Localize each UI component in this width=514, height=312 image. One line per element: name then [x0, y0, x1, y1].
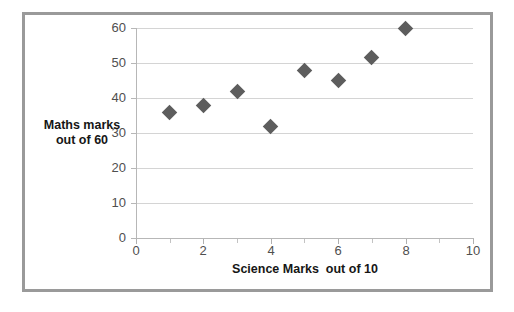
gridline-20 [136, 168, 473, 169]
y-tick-label-20: 20 [100, 161, 126, 174]
x-axis-title: Science Marks out of 10 [136, 262, 474, 276]
gridline-60 [136, 28, 473, 29]
y-axis-title-line1: Maths marks [34, 118, 130, 133]
x-axis-line [136, 238, 474, 239]
scatter-chart: 60 50 40 30 20 10 0 0 2 4 6 8 10 Maths m… [0, 0, 514, 312]
y-tick-label-40: 40 [100, 91, 126, 104]
x-tick-9 [439, 239, 440, 243]
y-axis-title: Maths marks out of 60 [34, 118, 130, 148]
y-axis-title-line2: out of 60 [34, 133, 130, 148]
gridlines-group [136, 28, 473, 238]
x-tick-label-10: 10 [458, 243, 488, 258]
y-tick-label-10: 10 [100, 196, 126, 209]
gridline-10 [136, 203, 473, 204]
x-tick-5 [304, 239, 305, 243]
y-tick-40 [131, 98, 136, 99]
y-tick-label-50: 50 [100, 56, 126, 69]
y-tick-50 [131, 63, 136, 64]
x-tick-3 [237, 239, 238, 243]
x-tick-label-0: 0 [121, 243, 151, 258]
y-axis-line [136, 28, 137, 239]
x-tick-label-4: 4 [256, 243, 286, 258]
y-tick-20 [131, 168, 136, 169]
y-tick-60 [131, 28, 136, 29]
gridline-30 [136, 133, 473, 134]
x-tick-label-8: 8 [391, 243, 421, 258]
y-tick-30 [131, 133, 136, 134]
y-tick-label-60: 60 [100, 21, 126, 34]
x-tick-7 [372, 239, 373, 243]
x-tick-1 [170, 239, 171, 243]
x-tick-label-6: 6 [323, 243, 353, 258]
x-tick-label-2: 2 [188, 243, 218, 258]
y-tick-10 [131, 203, 136, 204]
gridline-40 [136, 98, 473, 99]
